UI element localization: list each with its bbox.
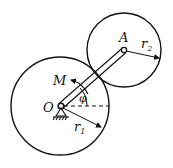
gear-crank-diagram: A O M φ r1 r2	[0, 0, 173, 168]
pin-A	[121, 47, 126, 52]
label-r2: r2	[141, 36, 152, 53]
label-phi: φ	[79, 92, 87, 105]
label-r2-sub: 2	[146, 44, 152, 53]
label-A: A	[118, 30, 128, 45]
radius-r2-arrow	[126, 51, 159, 58]
label-O: O	[43, 100, 54, 115]
label-M: M	[52, 73, 67, 88]
label-r1-sub: 1	[80, 127, 85, 136]
label-r1: r1	[74, 119, 85, 136]
